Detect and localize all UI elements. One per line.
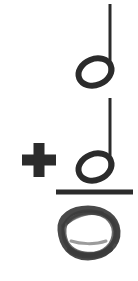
whole-note-inner-scribble (71, 241, 106, 244)
whole-note-sketch-group (61, 209, 118, 257)
music-note-addition-worksheet: Half note plus half note equals whole no… (0, 0, 138, 281)
answer-whole-note (0, 0, 138, 281)
